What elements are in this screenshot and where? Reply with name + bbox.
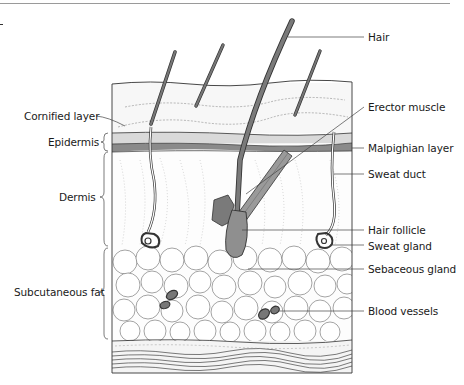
label-subcutaneous-fat: Subcutaneous fat <box>14 286 105 298</box>
label-dermis: Dermis <box>59 191 96 203</box>
label-sebaceous-gland: Sebaceous gland <box>368 263 456 275</box>
label-hair-follicle: Hair follicle <box>368 224 426 236</box>
label-sweat-duct: Sweat duct <box>368 168 426 180</box>
label-sweat-gland: Sweat gland <box>368 240 432 252</box>
label-cornified-layer: Cornified layer <box>24 110 99 122</box>
label-blood-vessels: Blood vessels <box>368 305 438 317</box>
label-hair: Hair <box>368 31 389 43</box>
label-epidermis: Epidermis <box>48 136 99 148</box>
label-erector-muscle: Erector muscle <box>368 101 445 113</box>
brackets <box>100 133 108 339</box>
label-malpighian-layer: Malpighian layer <box>368 142 453 154</box>
